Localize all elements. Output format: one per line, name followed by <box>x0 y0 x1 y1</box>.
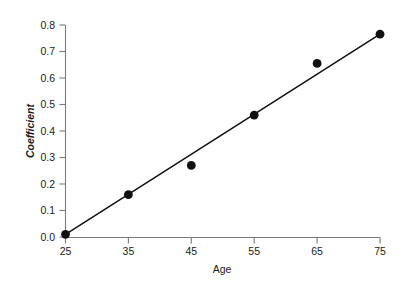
y-tick-label: 0.3 <box>40 151 55 163</box>
y-tick-label: 0.5 <box>40 98 55 110</box>
data-point <box>376 30 385 39</box>
y-tick-label: 0.4 <box>40 125 55 137</box>
x-tick-label: 65 <box>311 245 323 257</box>
data-point <box>250 111 259 120</box>
scatter-plot: 0.8 0.7 0.6 0.5 0.4 0.3 0.2 0.1 0.0 25 3… <box>0 0 405 284</box>
chart-background <box>0 0 405 284</box>
y-axis-title: Coefficient <box>24 103 36 158</box>
y-tick-label: 0.7 <box>40 45 55 57</box>
x-axis-title: Age <box>213 263 232 275</box>
x-tick-label: 25 <box>60 245 72 257</box>
x-tick-label: 45 <box>185 245 197 257</box>
y-tick-label: 0.2 <box>40 178 55 190</box>
x-tick-label: 35 <box>123 245 135 257</box>
x-tick-label: 55 <box>248 245 260 257</box>
x-tick-label: 75 <box>374 245 386 257</box>
data-point <box>124 190 133 199</box>
y-tick-label: 0.0 <box>40 231 55 243</box>
chart-figure: 0.8 0.7 0.6 0.5 0.4 0.3 0.2 0.1 0.0 25 3… <box>0 0 405 284</box>
y-tick-label: 0.8 <box>40 19 55 31</box>
y-tick-label: 0.6 <box>40 72 55 84</box>
data-point <box>313 59 322 68</box>
data-point <box>187 161 196 170</box>
y-axis-tick-labels: 0.8 0.7 0.6 0.5 0.4 0.3 0.2 0.1 0.0 <box>40 19 55 243</box>
y-tick-label: 0.1 <box>40 204 55 216</box>
data-point <box>61 230 70 239</box>
